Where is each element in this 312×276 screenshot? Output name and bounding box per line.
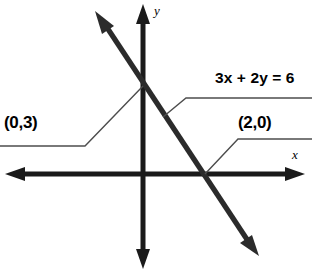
coordinate-plane-svg <box>0 0 312 276</box>
x-axis <box>5 167 305 181</box>
label-x-intercept: (2,0) <box>238 114 271 131</box>
y-axis <box>136 4 150 269</box>
graph-figure: (0,3) (2,0) 3x + 2y = 6 x y <box>0 0 312 276</box>
line-arrow-lower-right-icon <box>240 235 259 256</box>
y-axis-arrow-up-icon <box>136 4 150 24</box>
x-axis-arrow-left-icon <box>5 167 25 181</box>
y-axis-arrow-down-icon <box>136 249 150 269</box>
label-y-intercept: (0,3) <box>4 114 37 131</box>
label-axis-y: y <box>154 4 160 17</box>
x-axis-arrow-right-icon <box>285 167 305 181</box>
plotted-line-3x-2y-6 <box>95 11 259 256</box>
label-axis-x: x <box>292 148 298 161</box>
line-segment <box>104 23 250 244</box>
label-equation: 3x + 2y = 6 <box>215 70 295 86</box>
